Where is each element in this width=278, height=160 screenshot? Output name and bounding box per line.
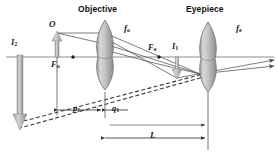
object-label: O [49,20,56,29]
focal-point-eyepiece-label: Fe [148,43,156,52]
final-image-arrow [13,55,27,130]
optics-diagram-figure: Objective Eyepiece fo fe O Fo Fe I1 I2 p… [0,0,278,160]
I1-subscript: 1 [175,45,178,51]
f-objective-subscript: o [127,27,130,33]
ray-bundle-eyepiece [105,50,274,78]
F-eyepiece-subscript: e [154,46,157,52]
I2-subscript: 2 [14,41,17,47]
dimension-p1-label: p1 [73,104,80,113]
eyepiece-label: Eyepiece [186,5,224,14]
dimension-q1-label: q1 [112,104,119,113]
tube-length-label: L [150,131,156,140]
dimension-L [105,92,208,150]
p1-subscript: 1 [77,107,80,113]
focal-point-eyepiece-dot [157,55,160,58]
focal-length-objective-label: fo [124,24,130,33]
intermediate-image-label: I1 [172,42,178,51]
virtual-image-projection-lines [20,73,207,128]
objective-label: Objective [78,5,117,14]
f-eyepiece-subscript: e [239,27,242,33]
final-image-label: I2 [11,38,17,47]
focal-length-eyepiece-label: fe [236,24,242,33]
focal-point-objective-label: Fo [51,60,60,69]
objective-lens [97,20,114,90]
object-arrow [52,31,62,57]
focal-point-objective-dot [71,55,74,58]
q1-subscript: 1 [116,107,119,113]
F-objective-subscript: o [57,63,60,69]
eyepiece-lens [200,22,217,92]
